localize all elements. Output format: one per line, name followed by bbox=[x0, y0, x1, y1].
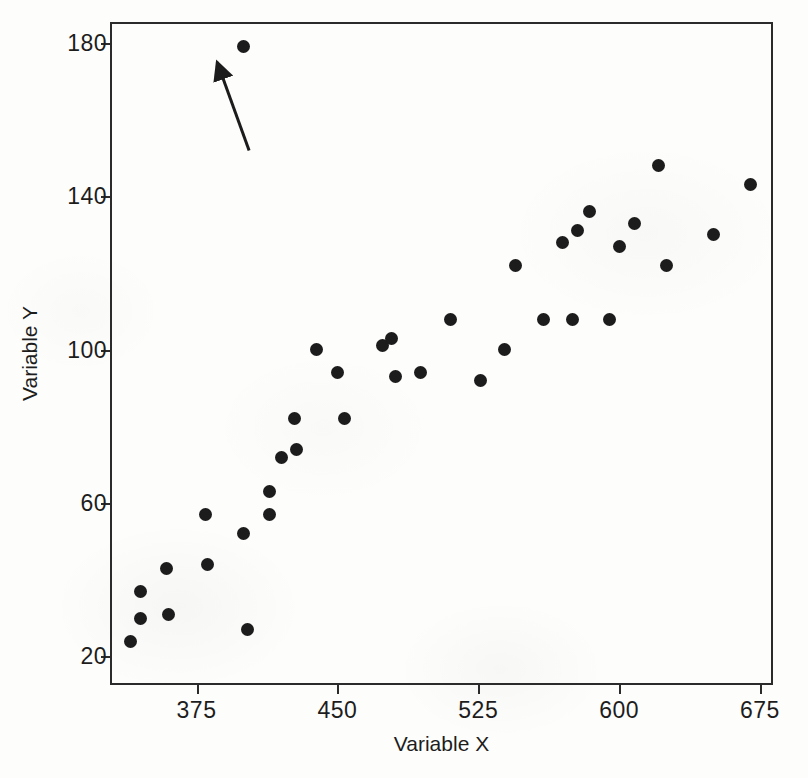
x-axis-title: Variable X bbox=[110, 732, 773, 756]
data-point bbox=[498, 343, 511, 356]
data-point bbox=[613, 240, 626, 253]
data-point bbox=[509, 259, 522, 272]
data-point bbox=[201, 558, 214, 571]
data-point bbox=[628, 217, 641, 230]
y-tick-label: 140 bbox=[67, 183, 107, 210]
x-tick-label: 375 bbox=[177, 697, 217, 724]
data-point bbox=[744, 178, 757, 191]
data-point bbox=[134, 612, 147, 625]
data-point bbox=[237, 527, 250, 540]
data-point bbox=[571, 224, 584, 237]
data-point bbox=[160, 562, 173, 575]
data-point bbox=[444, 313, 457, 326]
data-point bbox=[124, 635, 137, 648]
y-tick-label: 20 bbox=[80, 643, 107, 670]
data-point bbox=[537, 313, 550, 326]
data-point bbox=[556, 236, 569, 249]
data-point bbox=[566, 313, 579, 326]
y-axis-title: Variable Y bbox=[18, 22, 48, 685]
x-tick-mark bbox=[619, 683, 621, 694]
x-tick-label: 450 bbox=[317, 697, 357, 724]
data-point bbox=[338, 412, 351, 425]
data-point bbox=[389, 370, 402, 383]
data-point bbox=[474, 374, 487, 387]
data-point bbox=[660, 259, 673, 272]
data-point bbox=[162, 608, 175, 621]
data-point bbox=[199, 508, 212, 521]
data-point bbox=[583, 205, 596, 218]
data-point bbox=[275, 451, 288, 464]
data-point bbox=[290, 443, 303, 456]
x-tick-label: 525 bbox=[458, 697, 498, 724]
data-point bbox=[288, 412, 301, 425]
outlier-arrow-icon bbox=[217, 62, 249, 150]
plot-area-frame: 2060100140180 375450525600675 bbox=[110, 22, 773, 685]
data-point bbox=[414, 366, 427, 379]
x-tick-mark bbox=[760, 683, 762, 694]
data-point bbox=[263, 485, 276, 498]
scatter-plot-figure: 2060100140180 375450525600675 Variable X… bbox=[0, 0, 808, 778]
y-tick-label: 180 bbox=[67, 30, 107, 57]
x-tick-mark bbox=[337, 683, 339, 694]
x-tick-label: 600 bbox=[599, 697, 639, 724]
data-point bbox=[331, 366, 344, 379]
data-point bbox=[134, 585, 147, 598]
data-point bbox=[707, 228, 720, 241]
data-point bbox=[263, 508, 276, 521]
y-tick-label: 60 bbox=[80, 490, 107, 517]
data-point bbox=[385, 332, 398, 345]
x-tick-label: 675 bbox=[740, 697, 780, 724]
y-tick-label: 100 bbox=[67, 336, 107, 363]
data-point bbox=[310, 343, 323, 356]
x-tick-mark bbox=[478, 683, 480, 694]
x-tick-mark bbox=[197, 683, 199, 694]
data-point bbox=[652, 159, 665, 172]
annotation-layer bbox=[112, 24, 775, 687]
data-point bbox=[603, 313, 616, 326]
data-point bbox=[241, 623, 254, 636]
data-point-outlier bbox=[237, 40, 250, 53]
